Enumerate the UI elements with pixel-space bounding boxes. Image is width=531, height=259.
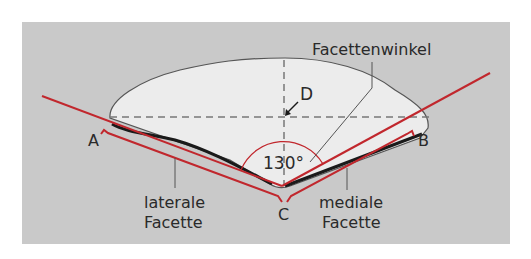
- label-point-d: D: [300, 84, 313, 104]
- label-angle-value: 130°: [263, 153, 304, 173]
- label-lateral-line2: Facette: [144, 213, 203, 232]
- label-point-c: C: [278, 205, 289, 224]
- patella-facet-angle-diagram: Facettenwinkel D 130° A B C laterale Fac…: [0, 0, 531, 259]
- label-medial-line1: mediale: [319, 193, 383, 212]
- label-medial-line2: Facette: [322, 213, 381, 232]
- label-lateral-line1: laterale: [144, 193, 205, 212]
- label-facet-angle: Facettenwinkel: [312, 40, 431, 59]
- label-point-b: B: [418, 131, 429, 150]
- label-point-a: A: [88, 131, 99, 150]
